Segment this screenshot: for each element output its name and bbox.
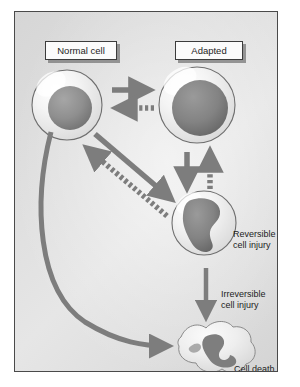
- label-adapted-text: Adapted: [191, 46, 226, 56]
- node-adapted-cell: [158, 61, 235, 143]
- label-normal-cell-text: Normal cell: [57, 46, 105, 56]
- label-normal-cell: Normal cell: [45, 41, 117, 60]
- diagram-panel: Normal cell Adapted Reversible cell inju…: [14, 11, 278, 372]
- cell-injury-diagram: Normal cell Adapted Reversible cell inju…: [0, 0, 300, 387]
- node-reversible-cell: [172, 188, 236, 255]
- label-adapted: Adapted: [175, 41, 243, 60]
- label-cell-death: Cell death: [234, 364, 275, 372]
- label-reversible-cell-injury: Reversible cell injury: [233, 229, 276, 250]
- arrow-normal-to-reversible: [95, 134, 170, 198]
- label-irreversible-cell-injury: Irreversible cell injury: [221, 289, 266, 310]
- diagram-artwork: [15, 12, 278, 372]
- node-normal-cell: [32, 66, 102, 140]
